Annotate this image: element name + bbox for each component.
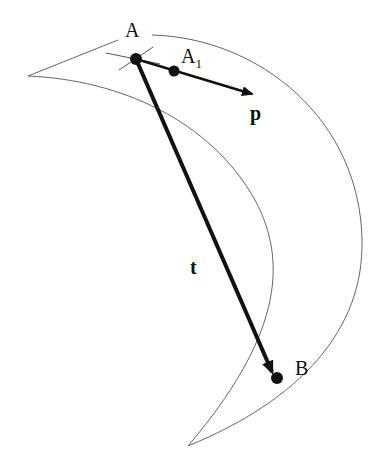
crescent-left-tip	[28, 40, 118, 76]
label-a1: A1	[181, 45, 202, 71]
label-a: A	[125, 19, 140, 41]
point-b-dot	[271, 372, 283, 384]
point-a1-dot	[169, 66, 180, 77]
crescent-inner-curve	[28, 76, 273, 446]
point-a-dot	[130, 53, 142, 65]
crescent-outer-curve	[152, 35, 362, 446]
label-t: t	[190, 256, 197, 278]
label-p: p	[250, 102, 261, 125]
label-a1-subscript: 1	[195, 56, 202, 71]
label-b: B	[295, 357, 308, 379]
diagram-canvas: A A1 p t B	[0, 0, 390, 464]
label-a1-main: A	[181, 45, 196, 67]
